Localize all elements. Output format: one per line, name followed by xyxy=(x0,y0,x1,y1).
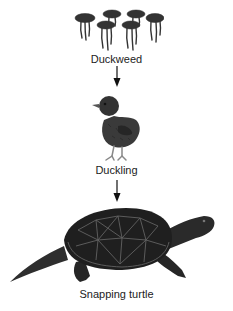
duckweed-icon xyxy=(72,8,164,52)
duckling-icon xyxy=(90,90,146,162)
arrow-duckweed-to-duckling xyxy=(112,66,122,87)
duckweed-node xyxy=(72,8,164,52)
duckweed-label: Duckweed xyxy=(0,53,233,65)
duckling-label: Duckling xyxy=(0,164,233,176)
arrow-duckling-to-snapping-turtle xyxy=(112,180,122,202)
snapping-turtle-node xyxy=(6,206,218,288)
arrow-down-icon xyxy=(112,180,122,202)
snapping-turtle-icon xyxy=(6,206,218,288)
snapping-turtle-label: Snapping turtle xyxy=(0,288,233,300)
arrow-down-icon xyxy=(112,66,122,87)
duckling-node xyxy=(90,90,146,162)
